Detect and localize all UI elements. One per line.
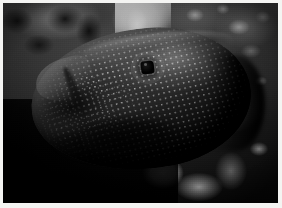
reef-region-upper-left-shadow — [3, 5, 123, 61]
reef-region-coral-rubble — [123, 131, 278, 203]
reef-region-upper-right-texture — [179, 3, 278, 81]
fish-spot-pattern — [23, 16, 258, 182]
fish-eye-ring — [132, 52, 164, 83]
fish-body — [23, 16, 258, 182]
reef-region-murky-water — [173, 65, 278, 155]
fish-eye-glint — [144, 63, 147, 66]
photo-frame — [0, 0, 282, 208]
photograph-canvas — [3, 3, 278, 203]
vignette-overlay — [3, 3, 278, 203]
fish-snout — [31, 52, 98, 106]
fish-caudal-region — [207, 55, 265, 151]
reef-region-deep-shadow — [3, 99, 178, 203]
fish-ventral-shadow — [47, 108, 200, 172]
film-grain-overlay — [3, 3, 278, 203]
fish-spot-pattern-head — [23, 41, 163, 182]
fish-eye — [140, 60, 154, 74]
fish-body-shading — [23, 16, 258, 182]
reef-background — [3, 3, 278, 203]
fish-gill-crease — [60, 65, 90, 122]
fish-dorsal-ridge — [82, 25, 234, 67]
reef-region-light-shaft — [115, 3, 171, 55]
spotted-reef-fish — [31, 29, 251, 169]
